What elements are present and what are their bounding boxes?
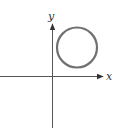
- circle: [57, 28, 97, 68]
- x-axis-label: x: [106, 70, 113, 83]
- y-axis-label: y: [47, 10, 55, 23]
- coordinate-diagram: x y: [0, 0, 118, 128]
